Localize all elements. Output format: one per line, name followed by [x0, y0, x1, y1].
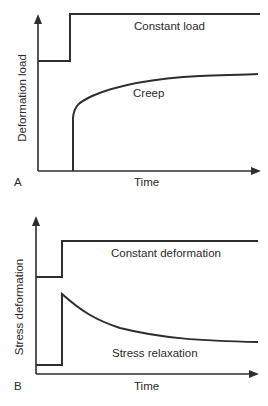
panel-a-y-axis-label: Deformation load — [16, 48, 28, 148]
panel-b-letter: B — [14, 380, 22, 392]
stress-relaxation-label: Stress relaxation — [112, 347, 198, 359]
panel-a-letter: A — [14, 176, 22, 188]
constant-load-label: Constant load — [134, 20, 205, 32]
creep-label: Creep — [133, 87, 164, 99]
panel-a-x-axis-label: Time — [134, 176, 159, 188]
panel-a-y-arrow-icon — [34, 14, 42, 24]
panel-b-x-arrow-icon — [249, 370, 259, 378]
panel-b-x-axis-label: Time — [134, 380, 159, 392]
constant-deformation-label: Constant deformation — [111, 247, 221, 259]
diagram-canvas — [0, 0, 268, 406]
panel-a-x-arrow-icon — [251, 167, 261, 175]
panel-b-y-axis-label: Stress deformation — [13, 252, 25, 362]
creep-curve — [73, 74, 258, 171]
panel-b-y-arrow-icon — [32, 216, 40, 226]
